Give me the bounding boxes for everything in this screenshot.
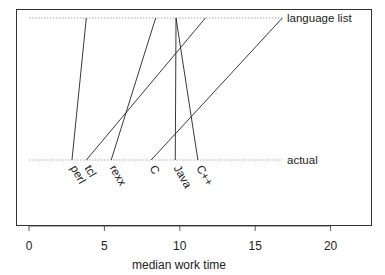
x-axis: 05101520: [26, 226, 338, 253]
x-tick-label: 15: [249, 239, 263, 253]
slope-java: [175, 18, 176, 160]
series-labels: perltclrexxCJavaC++: [68, 163, 215, 191]
x-tick-label: 0: [26, 239, 33, 253]
slope-c: [151, 18, 282, 160]
slope-perl: [72, 18, 86, 160]
series-label: C++: [194, 163, 215, 188]
x-tick-label: 10: [173, 239, 187, 253]
level-actual-label: actual: [287, 154, 318, 166]
series-label: C: [147, 163, 162, 176]
series-label: Java: [172, 163, 195, 191]
slope-lines: [72, 18, 282, 160]
series-label: rexx: [107, 163, 128, 188]
slope-chart: language listactual perltclrexxCJavaC++ …: [0, 0, 385, 275]
x-tick-label: 20: [324, 239, 338, 253]
level-language-list-label: language list: [287, 12, 352, 24]
plot-frame: [17, 10, 372, 226]
x-axis-label: median work time: [132, 258, 226, 272]
slope-cpp: [176, 18, 198, 160]
slope-rexx: [111, 18, 155, 160]
x-tick-label: 5: [101, 239, 108, 253]
slope-tcl: [86, 18, 205, 160]
